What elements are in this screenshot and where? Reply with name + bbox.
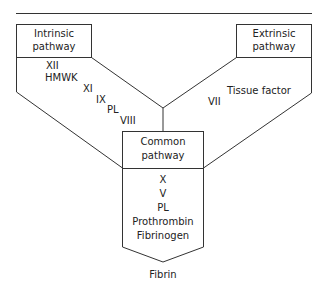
intrinsic-title-line1: Intrinsic bbox=[34, 28, 74, 40]
extrinsic-title-line1: Extrinsic bbox=[253, 28, 296, 40]
intrinsic-factor: PL bbox=[107, 104, 119, 116]
extrinsic-outer-edge bbox=[204, 58, 312, 169]
extrinsic-title-line2: pathway bbox=[253, 41, 296, 53]
intrinsic-title-line2: pathway bbox=[33, 41, 76, 53]
common-factor: Fibrinogen bbox=[137, 230, 189, 242]
common-factor: Prothrombin bbox=[132, 216, 193, 228]
intrinsic-factor: VIII bbox=[120, 115, 136, 127]
intrinsic-factor: HMWK bbox=[45, 72, 78, 84]
intrinsic-factor: XII bbox=[46, 60, 59, 72]
coagulation-cascade-diagram: Intrinsic pathway Extrinsic pathway XII … bbox=[0, 0, 322, 290]
common-factor: V bbox=[160, 188, 167, 200]
extrinsic-factor: Tissue factor bbox=[227, 85, 291, 97]
intrinsic-factor: IX bbox=[96, 94, 106, 106]
extrinsic-factor: VII bbox=[208, 96, 221, 108]
extrinsic-inner-edge bbox=[163, 58, 237, 109]
common-title-line2: pathway bbox=[142, 150, 185, 162]
product-label: Fibrin bbox=[149, 269, 176, 281]
common-factor: X bbox=[160, 174, 167, 186]
common-factor: PL bbox=[157, 202, 169, 214]
common-title-line1: Common bbox=[140, 136, 185, 148]
intrinsic-factor: XI bbox=[83, 83, 93, 95]
